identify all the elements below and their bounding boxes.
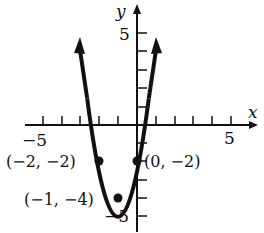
x-axis-label: x xyxy=(248,102,258,122)
y-axis-label: y xyxy=(115,1,126,21)
point-neg2-neg2 xyxy=(95,157,104,166)
vertex-label: (−1, −4) xyxy=(24,190,94,209)
vertex-point xyxy=(114,194,123,203)
x-axis-arrow-icon xyxy=(249,121,258,129)
point-label-0-neg2: (0, −2) xyxy=(144,152,200,171)
x-tick-label-neg5: −5 xyxy=(22,130,47,150)
point-label-neg2-neg2: (−2, −2) xyxy=(6,152,76,171)
point-0-neg2 xyxy=(133,157,142,166)
y-tick-label-5: 5 xyxy=(119,24,130,44)
y-tick-label-neg5: −5 xyxy=(104,206,129,226)
y-axis-arrow-icon xyxy=(133,4,141,14)
parabola-graph: x y −5 5 5 −5 (−2, −2) (0, −2) (−1, −4) xyxy=(0,0,264,233)
x-tick-label-5: 5 xyxy=(224,128,235,148)
